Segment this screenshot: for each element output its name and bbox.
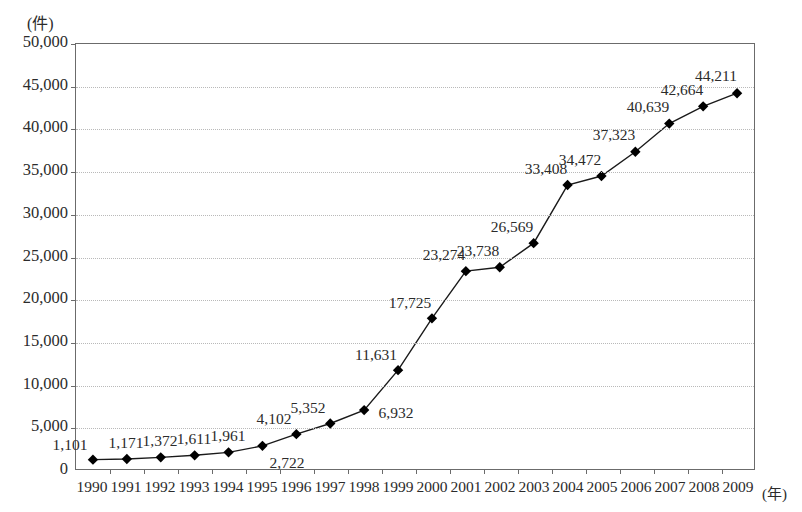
x-axis-tick xyxy=(552,469,553,474)
data-point-marker[interactable] xyxy=(325,418,335,428)
x-axis-tick xyxy=(416,469,417,474)
gridline xyxy=(76,428,754,429)
chart-page: (件) (年) 05,00010,00015,00020,00025,00030… xyxy=(0,0,802,512)
gridline xyxy=(76,258,754,259)
x-axis-tick-label: 1993 xyxy=(179,478,210,496)
data-point-marker[interactable] xyxy=(732,88,742,98)
data-point-marker[interactable] xyxy=(427,313,437,323)
y-axis-tick-label: 0 xyxy=(0,459,68,479)
gridline xyxy=(76,87,754,88)
y-axis-tick-label: 30,000 xyxy=(0,203,68,223)
x-axis-tick xyxy=(348,469,349,474)
x-axis-tick-label: 2002 xyxy=(485,478,516,496)
data-point-marker[interactable] xyxy=(562,180,572,190)
y-axis-tick-label: 5,000 xyxy=(0,416,68,436)
x-axis-tick-label: 2001 xyxy=(451,478,482,496)
x-axis-tick xyxy=(450,469,451,474)
data-point-marker[interactable] xyxy=(257,441,267,451)
x-axis-tick-label: 2004 xyxy=(553,478,584,496)
y-axis-tick-label: 20,000 xyxy=(0,288,68,308)
data-point-marker[interactable] xyxy=(122,454,132,464)
x-axis-tick xyxy=(654,469,655,474)
data-point-marker[interactable] xyxy=(495,262,505,272)
data-point-label: 11,631 xyxy=(355,346,397,364)
x-axis-tick-label: 2000 xyxy=(417,478,448,496)
x-axis-tick-label: 2006 xyxy=(621,478,652,496)
x-axis-tick xyxy=(110,469,111,474)
series-line xyxy=(93,93,737,459)
y-axis-tick-label: 35,000 xyxy=(0,160,68,180)
y-axis-tick xyxy=(71,386,76,387)
x-axis-tick-label: 2008 xyxy=(689,478,720,496)
gridline xyxy=(76,215,754,216)
y-axis-tick xyxy=(71,44,76,45)
data-point-marker[interactable] xyxy=(698,101,708,111)
data-point-label: 40,639 xyxy=(627,98,670,116)
data-point-label: 5,352 xyxy=(291,399,326,417)
data-point-marker[interactable] xyxy=(461,266,471,276)
x-axis-tick xyxy=(722,469,723,474)
x-axis-tick xyxy=(518,469,519,474)
data-point-label: 23,738 xyxy=(457,242,500,260)
data-point-marker[interactable] xyxy=(189,450,199,460)
data-point-label: 37,323 xyxy=(593,126,636,144)
x-axis-tick xyxy=(246,469,247,474)
data-point-label: 1,101 xyxy=(53,436,88,454)
x-axis-tick xyxy=(382,469,383,474)
data-point-label: 2,722 xyxy=(270,454,305,472)
x-axis-tick xyxy=(178,469,179,474)
data-point-label: 1,611 xyxy=(177,430,211,448)
y-axis-tick-label: 40,000 xyxy=(0,117,68,137)
x-axis-tick-label: 1990 xyxy=(77,478,108,496)
data-point-label: 44,211 xyxy=(695,67,737,85)
data-point-label: 6,932 xyxy=(379,404,414,422)
y-axis-tick xyxy=(71,87,76,88)
data-point-label: 17,725 xyxy=(389,294,432,312)
y-axis-tick xyxy=(71,258,76,259)
y-axis-tick xyxy=(71,343,76,344)
gridline xyxy=(76,129,754,130)
x-axis-unit-label: (年) xyxy=(762,482,787,503)
data-point-marker[interactable] xyxy=(291,429,301,439)
y-axis-tick-label: 50,000 xyxy=(0,32,68,52)
data-point-label: 34,472 xyxy=(559,151,602,169)
data-point-label: 1,961 xyxy=(211,427,246,445)
x-axis-tick-labels: 1990199119921993199419951996199719981999… xyxy=(75,478,755,502)
x-axis-tick-label: 1992 xyxy=(145,478,176,496)
y-axis-tick-label: 25,000 xyxy=(0,246,68,266)
x-axis-tick xyxy=(212,469,213,474)
x-axis-tick xyxy=(688,469,689,474)
data-point-marker[interactable] xyxy=(88,454,98,464)
y-axis-tick xyxy=(71,428,76,429)
x-axis-tick-label: 1999 xyxy=(383,478,414,496)
y-axis-tick xyxy=(71,215,76,216)
data-point-label: 4,102 xyxy=(257,410,292,428)
data-point-label: 26,569 xyxy=(491,218,534,236)
gridline xyxy=(76,386,754,387)
x-axis-tick-label: 2003 xyxy=(519,478,550,496)
x-axis-tick xyxy=(586,469,587,474)
y-axis-tick-label: 45,000 xyxy=(0,75,68,95)
x-axis-tick-label: 1997 xyxy=(315,478,346,496)
gridline xyxy=(76,172,754,173)
x-axis-tick-label: 1995 xyxy=(247,478,278,496)
y-axis-tick xyxy=(71,300,76,301)
x-axis-tick-label: 1998 xyxy=(349,478,380,496)
data-point-marker[interactable] xyxy=(223,447,233,457)
x-axis-tick-label: 2005 xyxy=(587,478,618,496)
x-axis-tick xyxy=(144,469,145,474)
data-point-label: 1,372 xyxy=(143,432,178,450)
y-axis-tick xyxy=(71,129,76,130)
x-axis-tick-label: 2009 xyxy=(723,478,754,496)
y-axis-tick xyxy=(71,172,76,173)
data-point-label: 1,171 xyxy=(109,434,144,452)
x-axis-tick-label: 2007 xyxy=(655,478,686,496)
data-point-marker[interactable] xyxy=(156,452,166,462)
x-axis-tick-label: 1991 xyxy=(111,478,142,496)
x-axis-tick-label: 1996 xyxy=(281,478,312,496)
data-point-marker[interactable] xyxy=(528,238,538,248)
gridline xyxy=(76,343,754,344)
y-axis-tick-label: 15,000 xyxy=(0,331,68,351)
x-axis-tick xyxy=(314,469,315,474)
x-axis-tick xyxy=(620,469,621,474)
